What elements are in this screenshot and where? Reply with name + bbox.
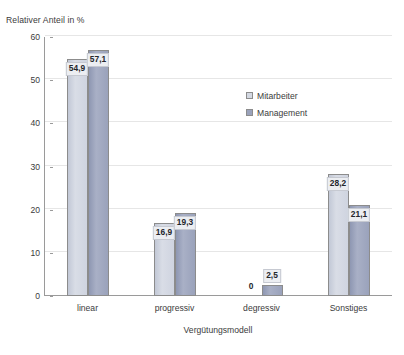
legend-label: Management [257,108,307,118]
x-tick-label: linear [77,303,98,313]
y-tick-label: 30 [10,162,40,171]
y-tick-label: 60 [10,33,40,42]
y-axis-ticks: 0102030405060 [8,37,40,296]
gridline [45,251,392,252]
x-tick-label: Sonstiges [330,303,368,313]
x-axis-ticks: linearprogressivdegressivSonstiges [44,303,392,319]
y-tick-label: 50 [10,76,40,85]
legend-item: Management [246,105,342,120]
x-tick-label: progressiv [155,303,195,313]
y-tick-mark [50,123,53,124]
y-tick-mark [50,296,53,297]
bar-chart: Relativer Anteil in % 0102030405060 54,9… [0,0,404,355]
y-tick-label: 0 [10,292,40,301]
y-tick-mark [50,167,53,168]
y-tick-mark [50,210,53,211]
y-tick-mark [50,253,53,254]
y-tick-label: 10 [10,249,40,258]
y-tick-mark [50,80,53,81]
x-axis-title: Vergütungsmodell [44,325,392,335]
x-tick-label: degressiv [243,303,280,313]
legend-swatch-icon [246,109,253,116]
plot-area [44,37,392,296]
y-tick-label: 20 [10,205,40,214]
legend-label: Mitarbeiter [257,91,298,101]
legend-swatch-icon [246,92,253,99]
y-tick-mark [50,37,53,38]
y-tick-label: 40 [10,119,40,128]
chart-legend: MitarbeiterManagement [246,88,342,122]
gridline [45,78,392,79]
legend-item: Mitarbeiter [246,88,342,103]
gridline [45,165,392,166]
gridline [45,35,392,36]
gridline [45,208,392,209]
y-axis-title: Relativer Anteil in % [6,15,85,25]
